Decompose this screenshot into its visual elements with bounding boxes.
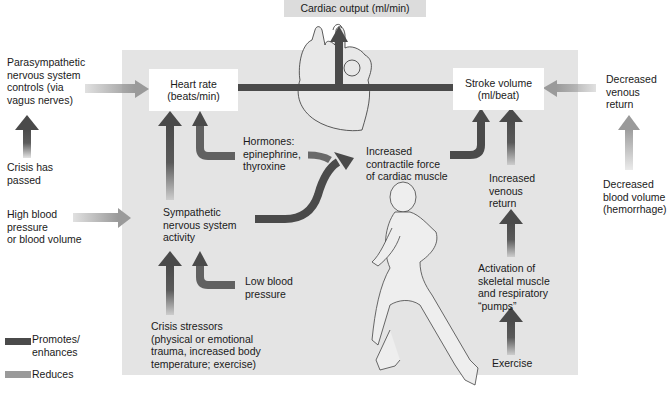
arrow-low-bp-to-sympathetic: [192, 251, 208, 266]
arrow-activation-to-venous: [499, 209, 523, 224]
arrow-blood-volume: [618, 115, 640, 130]
runner-illustration: [372, 182, 478, 385]
label-crisis-passed: Crisis haspassed: [7, 161, 53, 186]
cardiac-output-connector: [220, 84, 475, 91]
label-high-blood-pressure: High bloodpressureor blood volume: [7, 208, 82, 246]
arrow-parasympathetic-to-heart-rate: [135, 80, 149, 98]
arrow-crisis-passed: [15, 115, 39, 130]
label-contractile-force: Increasedcontractile forceof cardiac mus…: [366, 145, 448, 183]
arrows-layer: [0, 0, 669, 394]
label-decreased-blood-volume: Decreasedblood volume(hemorrhage): [603, 178, 667, 216]
label-hormones: Hormones:epinephrine,thyroxine: [243, 135, 301, 173]
node-heart-rate: Heart rate (beats/min): [149, 69, 238, 111]
label-low-blood-pressure: Low bloodpressure: [245, 275, 293, 300]
arrow-hormones-to-heart-rate: [192, 111, 208, 126]
legend-swatch-reduces: [5, 371, 31, 378]
legend-reduces: Reduces: [32, 368, 73, 381]
label-crisis-stressors: Crisis stressors(physical or emotional t…: [151, 320, 261, 370]
arrow-high-bp-to-sympathetic: [118, 208, 131, 228]
label-sympathetic-activity: Sympatheticnervous systemactivity: [163, 206, 237, 244]
legend-promotes: Promotes/enhances: [32, 333, 80, 358]
node-stroke-volume: Stroke volume (ml/beat): [453, 68, 544, 110]
arrow-decreased-venous-to-stroke: [543, 80, 557, 97]
arrow-contractile-to-stroke: [472, 108, 490, 122]
label-exercise: Exercise: [492, 357, 532, 370]
label-activation-pumps: Activation ofskeletal muscle and respira…: [478, 262, 550, 312]
arrow-stressors-to-sympathetic: [158, 251, 182, 266]
label-parasympathetic: Parasympatheticnervous system controls (…: [7, 56, 85, 106]
arrow-venous-to-stroke: [499, 108, 523, 122]
arrow-up-cardiac-output: [330, 26, 348, 42]
legend-swatch-promotes: [5, 338, 31, 345]
label-increased-venous-return: Increasedvenousreturn: [489, 172, 535, 210]
arrow-sympathetic-to-heart-rate: [158, 111, 182, 126]
label-decreased-venous-return: Decreasedvenousreturn: [606, 73, 657, 111]
